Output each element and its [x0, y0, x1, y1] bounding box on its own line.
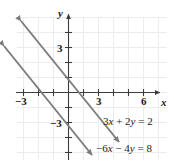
eq2-variable-x: x — [108, 142, 113, 154]
equation-label-line2: −6x − 4y = 8 — [96, 143, 152, 154]
x-tick-label-minus3: −3 — [15, 96, 27, 107]
y-tick-label-3: 3 — [57, 43, 63, 54]
eq1-variable-x: x — [109, 115, 114, 127]
eq1-equals-sign: = — [138, 115, 144, 127]
eq2-operator-minus: − — [115, 142, 121, 154]
coordinate-plane-figure: −3 3 6 3 −3 x y 3x + 2y = 2 −6x − 4y = 8 — [0, 0, 174, 165]
x-tick-label-3: 3 — [96, 96, 102, 107]
y-axis — [65, 14, 72, 160]
eq1-constant: 2 — [147, 115, 153, 127]
eq2-constant: 8 — [146, 142, 152, 154]
x-axis — [16, 89, 160, 96]
equation-label-line1: 3x + 2y = 2 — [103, 116, 153, 127]
eq2-coefficient-a: −6 — [96, 142, 108, 154]
eq1-variable-y: y — [131, 115, 136, 127]
eq1-operator-plus: + — [116, 115, 122, 127]
y-tick-label-minus3: −3 — [50, 118, 62, 129]
graph-canvas — [0, 0, 174, 165]
eq2-equals-sign: = — [137, 142, 143, 154]
x-tick-label-6: 6 — [141, 96, 147, 107]
y-axis-label: y — [58, 8, 63, 19]
eq2-variable-y: y — [130, 142, 135, 154]
x-axis-label: x — [161, 97, 167, 108]
